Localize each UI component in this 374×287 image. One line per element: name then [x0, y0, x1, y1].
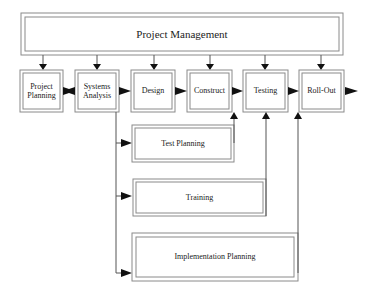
branch-arrows	[116, 139, 132, 277]
phase-label-testing: Testing	[246, 73, 285, 109]
task-label-test-planning: Test Planning	[135, 128, 231, 159]
project-lifecycle-diagram: Project Management Project Planning Syst…	[0, 0, 374, 287]
task-label-implementation-planning: Implementation Planning	[136, 237, 294, 277]
project-management-label: Project Management	[25, 17, 339, 51]
task-label-training: Training	[136, 182, 263, 213]
phase-label-systems-analysis: Systems Analysis	[78, 73, 116, 109]
phase-label-design: Design	[134, 73, 172, 109]
phase-label-roll-out: Roll-Out	[302, 73, 341, 109]
pm-down-arrows	[39, 55, 325, 70]
phase-label-project-planning: Project Planning	[23, 73, 60, 109]
phase-label-construct: Construct	[190, 73, 229, 109]
